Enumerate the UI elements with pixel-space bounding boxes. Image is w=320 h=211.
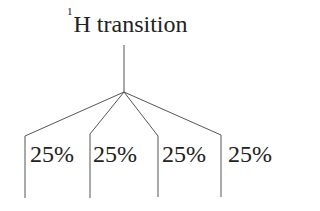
branch-label-3: 25% [162, 140, 206, 168]
title-superscript: 1 [67, 5, 73, 17]
branch-label-2: 25% [93, 140, 137, 168]
diagram-title: 1H transition [67, 10, 188, 38]
title-text: H transition [74, 11, 188, 37]
branch-label-4: 25% [228, 140, 272, 168]
branch-label-1: 25% [30, 140, 74, 168]
